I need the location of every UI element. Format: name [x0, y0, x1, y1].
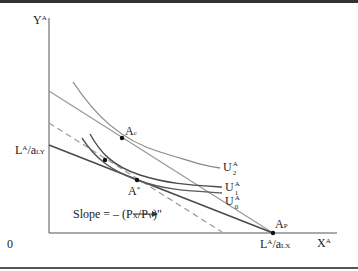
y-axis-label: YA [33, 14, 47, 26]
label-ap-sub: P [284, 222, 288, 230]
label-u0-sub: 0 [235, 201, 239, 213]
label-ac-name: A [125, 124, 134, 138]
label-a-star: A* [128, 185, 140, 197]
label-a-star-sup: * [137, 185, 141, 193]
y-int-l-sup: A [22, 144, 27, 152]
point-unlabeled [103, 158, 107, 162]
x-axis-label-sup: A [326, 237, 331, 245]
label-u2-indices: A2 [232, 161, 240, 173]
origin-label: 0 [7, 238, 13, 250]
y-axis-label-text: Y [33, 13, 42, 27]
y-axis-label-sup: A [42, 14, 47, 22]
x-axis-label: XA [317, 237, 331, 249]
indifference-curve-u1 [90, 134, 222, 187]
label-u2: UA2 [223, 161, 240, 173]
y-int-slash-a: /a [27, 143, 36, 157]
slope-mid: /P [138, 207, 148, 221]
x-axis-label-text: X [317, 236, 326, 250]
slope-suffix: )" [153, 207, 162, 221]
label-u1-name: U [225, 180, 234, 194]
slope-annotation: Slope = – (PX/PY)" [73, 208, 162, 220]
label-ap: AP [275, 218, 288, 230]
y-intercept-label: LA/aLY [15, 144, 45, 156]
label-u0: UA0 [225, 195, 242, 207]
label-ac-sub: c [134, 129, 137, 137]
point-a-star [135, 178, 139, 182]
slope-px-sub: X [133, 212, 138, 220]
label-ac: Ac [125, 125, 137, 137]
label-ap-name: A [275, 217, 284, 231]
diagram-canvas [0, 0, 358, 271]
x-int-sub: LX [281, 242, 290, 250]
y-int-sub: LY [36, 148, 45, 156]
label-u0-indices: A0 [234, 195, 242, 207]
x-intercept-label: LA/aLX [260, 238, 290, 250]
label-u2-name: U [223, 160, 232, 174]
point-ac [120, 136, 124, 140]
label-u0-name: U [225, 194, 234, 208]
slope-py-sub: Y [148, 212, 153, 220]
x-int-l-sup: A [267, 238, 272, 246]
point-ap [271, 231, 275, 235]
label-a-star-name: A [128, 184, 137, 198]
slope-prefix: Slope = – (P [73, 207, 133, 221]
x-int-slash-a: /a [272, 237, 281, 251]
